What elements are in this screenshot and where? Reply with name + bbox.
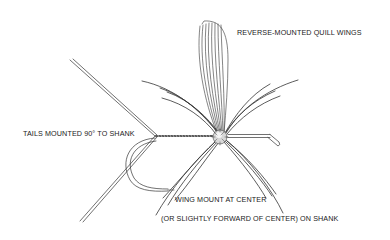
hook-bend <box>126 138 168 191</box>
hook-eye <box>228 135 280 147</box>
label-tails: TAILS MOUNTED 90° TO SHANK <box>23 129 135 138</box>
hook-shank <box>156 135 212 137</box>
label-wing-mount: WING MOUNT AT CENTER <box>175 195 266 204</box>
label-wing-mount-detail: (OR SLIGHTLY FORWARD OF CENTER) ON SHANK <box>161 214 338 223</box>
label-wings: REVERSE-MOUNTED QUILL WINGS <box>237 28 362 37</box>
